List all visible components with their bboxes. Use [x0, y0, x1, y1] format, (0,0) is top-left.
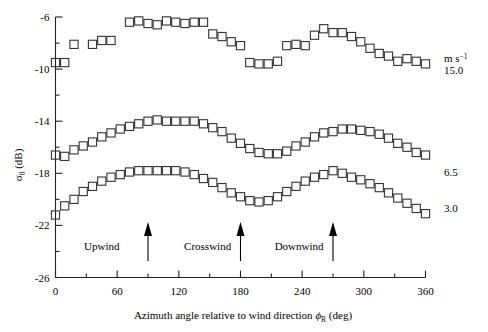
data-point-marker [190, 18, 198, 26]
data-point-marker [227, 38, 235, 46]
x-tick-label: 360 [417, 285, 434, 297]
data-point-marker [366, 44, 374, 52]
data-point-marker [394, 57, 402, 65]
data-point-marker [366, 128, 374, 136]
data-point-marker [79, 187, 87, 195]
data-point-marker [98, 133, 106, 141]
data-point-marker [357, 126, 365, 134]
data-point-marker [61, 202, 69, 210]
data-point-marker [384, 52, 392, 60]
data-point-marker [421, 151, 429, 159]
data-point-marker [412, 57, 420, 65]
legend-entry-15.0: 15.0 [444, 64, 464, 76]
series-3.0 [51, 167, 429, 219]
data-point-marker [88, 182, 96, 190]
data-point-marker [79, 142, 87, 150]
wind-annotation-label: Crosswind [184, 240, 232, 252]
data-point-marker [144, 117, 152, 125]
data-point-marker [181, 168, 189, 176]
data-point-marker [421, 210, 429, 218]
data-point-marker [116, 125, 124, 133]
x-tick-label: 0 [53, 285, 59, 297]
wind-annotation-label: Upwind [84, 240, 120, 252]
data-point-marker [162, 167, 170, 175]
data-point-marker [125, 18, 133, 26]
data-point-marker [273, 57, 281, 65]
data-point-marker [329, 128, 337, 136]
data-point-marker [144, 19, 152, 27]
wind-annotation-label: Downwind [275, 240, 324, 252]
y-title-units: (dB) [12, 148, 25, 171]
data-point-marker [107, 129, 115, 137]
y-tick-label: -26 [35, 272, 50, 284]
data-points [51, 17, 429, 219]
data-point-marker [246, 58, 254, 66]
wind-arrow-head [144, 222, 152, 236]
data-point-marker [255, 198, 263, 206]
svg-text:Azimuth angle relative to wind: Azimuth angle relative to wind direction… [134, 309, 352, 324]
x-title-main: Azimuth angle relative to wind direction [134, 309, 315, 321]
data-point-marker [255, 148, 263, 156]
data-point-marker [135, 120, 143, 128]
data-point-marker [181, 117, 189, 125]
data-point-marker [88, 138, 96, 146]
data-point-marker [218, 128, 226, 136]
series-15.0 [51, 17, 429, 68]
data-point-marker [218, 32, 226, 40]
x-axis-title: Azimuth angle relative to wind direction… [134, 309, 352, 324]
series-6.5 [51, 116, 429, 161]
data-point-marker [70, 40, 78, 48]
data-point-marker [70, 146, 78, 154]
x-tick-label: 60 [112, 285, 124, 297]
tick-labels: 060120180240300360-6-10-14-18-22-26 [35, 11, 434, 297]
legend-units: m s−1 [444, 52, 468, 65]
data-point-marker [61, 152, 69, 160]
data-point-marker [301, 138, 309, 146]
x-title-tail: (deg) [326, 309, 352, 322]
data-point-marker [227, 134, 235, 142]
data-point-marker [292, 142, 300, 150]
data-point-marker [375, 130, 383, 138]
data-point-marker [412, 204, 420, 212]
y-tick-label: -10 [35, 63, 50, 75]
data-point-marker [125, 122, 133, 130]
legend-entry-3.0: 3.0 [444, 202, 458, 214]
figure-container: 060120180240300360-6-10-14-18-22-26 Upwi… [0, 0, 488, 332]
scatter-plot: 060120180240300360-6-10-14-18-22-26 Upwi… [0, 0, 488, 332]
data-point-marker [153, 167, 161, 175]
data-point-marker [320, 129, 328, 137]
data-point-marker [338, 125, 346, 133]
y-tick-label: -22 [35, 219, 50, 231]
data-point-marker [320, 25, 328, 33]
wind-arrow-head [329, 222, 337, 236]
data-point-marker [209, 30, 217, 38]
data-point-marker [273, 150, 281, 158]
data-point-marker [236, 193, 244, 201]
data-point-marker [88, 40, 96, 48]
data-point-marker [301, 177, 309, 185]
data-point-marker [98, 177, 106, 185]
data-point-marker [172, 117, 180, 125]
data-point-marker [264, 60, 272, 68]
data-point-marker [384, 134, 392, 142]
data-point-marker [347, 125, 355, 133]
x-tick-label: 240 [294, 285, 311, 297]
data-point-marker [209, 178, 217, 186]
data-point-marker [209, 124, 217, 132]
data-point-marker [264, 150, 272, 158]
data-point-marker [310, 173, 318, 181]
data-point-marker [181, 19, 189, 27]
data-point-marker [301, 42, 309, 50]
legend-entry-6.5: 6.5 [444, 166, 458, 178]
data-point-marker [153, 116, 161, 124]
data-point-marker [403, 143, 411, 151]
data-point-marker [172, 167, 180, 175]
wind-annotations: UpwindCrosswindDownwind [84, 222, 337, 261]
data-point-marker [403, 199, 411, 207]
data-point-marker [70, 195, 78, 203]
data-point-marker [421, 60, 429, 68]
wind-arrow-head [237, 222, 245, 236]
x-tick-label: 300 [356, 285, 373, 297]
data-point-marker [264, 197, 272, 205]
data-point-marker [283, 42, 291, 50]
